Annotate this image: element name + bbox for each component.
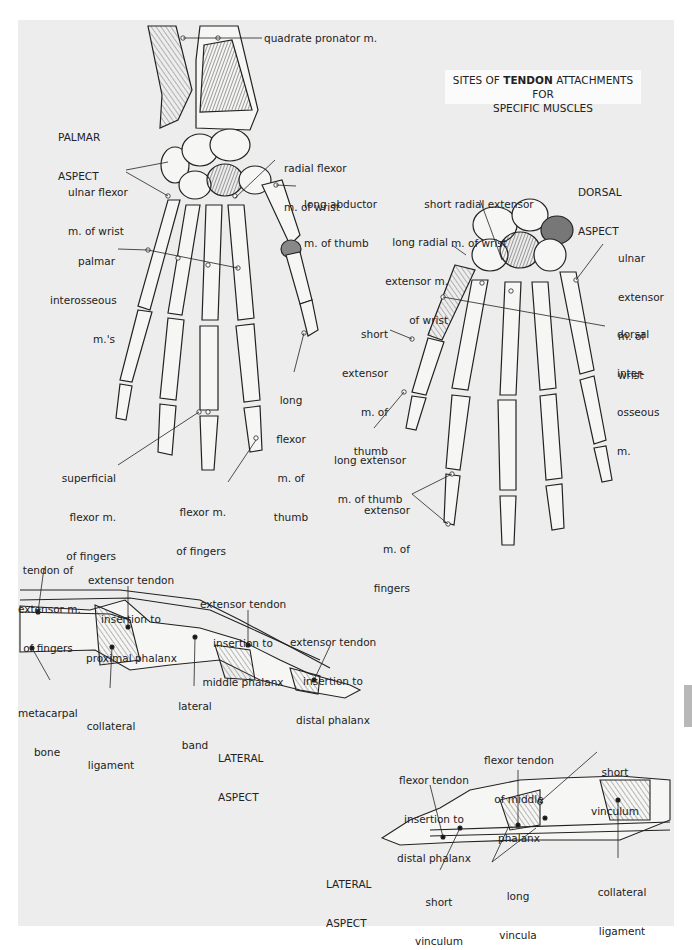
label-line: palmar <box>50 255 115 268</box>
label-line: dorsal <box>617 328 659 341</box>
label-flexor-tendon-middle-phalanx: flexor tendon of middle phalanx <box>484 728 554 858</box>
label-line: proximal phalanx <box>86 652 176 665</box>
label-line: insertion to <box>200 637 286 650</box>
label-line: distal phalanx <box>396 852 472 865</box>
label-dorsal-interosseous: dorsal inter- osseous m. <box>617 302 659 471</box>
label-line: fingers <box>358 582 410 595</box>
label-long-radial-extensor-wrist: long radial extensor m. of wrist <box>378 210 448 340</box>
label-long-abductor-thumb: long abductor m. of thumb <box>304 172 377 263</box>
label-line: long extensor <box>322 454 418 467</box>
label-line: ligament <box>596 925 648 938</box>
label-line: extensor m. <box>18 603 78 616</box>
label-line: bone <box>18 746 76 759</box>
label-line: tendon of <box>18 564 78 577</box>
label-line: inter- <box>617 367 659 380</box>
label-flexor-insertion-distal: flexor tendon insertion to distal phalan… <box>396 748 472 878</box>
label-line: insertion to <box>396 813 472 826</box>
label-line: collateral <box>86 720 136 733</box>
label-short-vinculum-top: short vinculum <box>590 740 640 831</box>
aspect-line: DORSAL <box>578 186 622 199</box>
label-line: extensor tendon <box>290 636 376 649</box>
label-line: of fingers <box>18 642 78 655</box>
label-extensor-insertion-proximal: extensor tendon insertion to proximal ph… <box>86 548 176 678</box>
label-line: extensor m. <box>378 275 448 288</box>
label-line: extensor tendon <box>86 574 176 587</box>
label-extensor-fingers: extensor m. of fingers <box>358 478 410 608</box>
label-extensor-insertion-distal: extensor tendon insertion to distal phal… <box>290 610 376 740</box>
label-line: lateral <box>176 700 214 713</box>
dorsal-aspect-label: DORSAL ASPECT <box>578 160 622 251</box>
label-line: long radial <box>378 236 448 249</box>
label-line: flexor m. <box>54 511 116 524</box>
label-quadrate-pronator: quadrate pronator m. <box>264 32 377 45</box>
label-short-vinculum-bottom: short vinculum <box>414 870 464 950</box>
label-line: extensor <box>340 367 388 380</box>
label-lateral-band: lateral band <box>176 674 214 765</box>
label-line: flexor tendon <box>396 774 472 787</box>
label-metacarpal-bone: metacarpal bone <box>18 681 76 772</box>
label-line: m.'s <box>50 333 115 346</box>
aspect-line: LATERAL <box>218 752 263 765</box>
label-line: flexor <box>271 433 311 446</box>
figure-title: SITES OF TENDON ATTACHMENTS FOR SPECIFIC… <box>445 70 641 104</box>
label-line: long <box>496 890 540 903</box>
label-collateral-ligament-flexor: collateral ligament <box>596 860 648 950</box>
label-line: m. of <box>271 472 311 485</box>
label-line: extensor tendon <box>200 598 286 611</box>
label-long-flexor-thumb: long flexor m. of thumb <box>271 368 311 537</box>
lateral-aspect-label-flexor: LATERAL ASPECT <box>326 852 371 943</box>
label-line: flexor tendon <box>484 754 554 767</box>
label-line: ulnar flexor <box>68 186 123 199</box>
label-line: superficial <box>54 472 116 485</box>
page-thumb-tab <box>684 685 692 727</box>
label-line: insertion to <box>86 613 176 626</box>
aspect-line: ASPECT <box>578 225 622 238</box>
label-line: short <box>340 328 388 341</box>
label-line: long <box>271 394 311 407</box>
label-line: metacarpal <box>18 707 76 720</box>
label-line: ligament <box>86 759 136 772</box>
label-line: short <box>590 766 640 779</box>
label-line: collateral <box>596 886 648 899</box>
label-line: ulnar <box>618 252 664 265</box>
title-emphasis: TENDON <box>503 74 553 86</box>
aspect-line: PALMAR <box>58 131 100 144</box>
label-line: phalanx <box>484 832 554 845</box>
label-line: vincula <box>496 929 540 942</box>
label-line: m. of thumb <box>304 237 377 250</box>
label-line: interosseous <box>50 294 115 307</box>
label-line: m. <box>617 445 659 458</box>
label-line: insertion to <box>290 675 376 688</box>
aspect-line: LATERAL <box>326 878 371 891</box>
label-line: of wrist <box>378 314 448 327</box>
aspect-line: ASPECT <box>218 791 263 804</box>
label-line: m. of <box>358 543 410 556</box>
lateral-aspect-label-extensor: LATERAL ASPECT <box>218 726 263 817</box>
label-palmar-interosseous: palmar interosseous m.'s <box>50 229 115 359</box>
label-line: band <box>176 739 214 752</box>
label-line: distal phalanx <box>290 714 376 727</box>
label-line: thumb <box>271 511 311 524</box>
label-line: flexor m. <box>164 506 226 519</box>
label-line: short <box>414 896 464 909</box>
label-long-vincula: long vincula <box>496 864 540 950</box>
label-collateral-ligament: collateral ligament <box>86 694 136 785</box>
label-line: long abductor <box>304 198 377 211</box>
aspect-line: ASPECT <box>326 917 371 930</box>
label-line: of middle <box>484 793 554 806</box>
label-tendon-extensor-fingers: tendon of extensor m. of fingers <box>18 538 78 668</box>
label-line: osseous <box>617 406 659 419</box>
label-line: m. of <box>340 406 388 419</box>
label-line: vinculum <box>414 935 464 948</box>
label-line: vinculum <box>590 805 640 818</box>
title-prefix: SITES OF <box>453 74 503 86</box>
label-line: extensor <box>358 504 410 517</box>
title-line2: SPECIFIC MUSCLES <box>493 102 593 114</box>
